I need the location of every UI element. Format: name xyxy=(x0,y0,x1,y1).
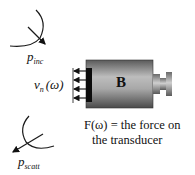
caption-line-2: the transducer xyxy=(84,133,181,148)
transducer-label: B xyxy=(116,74,126,91)
incident-subscript: inc xyxy=(34,57,44,66)
velocity-symbol: v xyxy=(34,77,40,92)
scattered-pressure-label: pscatt xyxy=(18,155,40,168)
velocity-argument: (ω) xyxy=(46,77,64,92)
scattered-subscript: scatt xyxy=(25,162,40,171)
diagram-canvas xyxy=(0,0,195,175)
incident-wavefront-arrow-icon xyxy=(10,10,45,46)
incident-symbol: p xyxy=(27,49,34,64)
force-caption: F(ω) = the force on the transducer xyxy=(84,118,181,148)
velocity-subscript: n xyxy=(40,85,44,94)
incident-pressure-label: pinc xyxy=(27,50,43,63)
caption-line-1: F(ω) = the force on xyxy=(84,118,181,133)
velocity-arrows-icon xyxy=(73,68,86,103)
transducer-body xyxy=(86,60,172,108)
scattered-wavefront-arrow-icon xyxy=(13,116,54,152)
velocity-label: vn(ω) xyxy=(34,78,64,91)
scattered-symbol: p xyxy=(18,154,25,169)
